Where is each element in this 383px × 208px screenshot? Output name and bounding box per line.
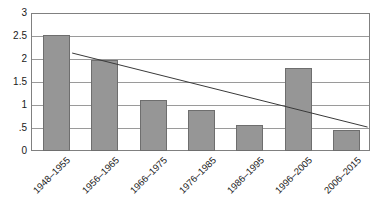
- y-tick-label: 2: [21, 54, 27, 64]
- y-tick-label: 0: [21, 146, 27, 156]
- x-axis: 1948–1955 1956–1965 1966–1975 1976–1985 …: [32, 151, 369, 208]
- x-tick-label: 2006–2015: [322, 155, 362, 195]
- bar: [333, 130, 360, 151]
- y-tick-label: 3: [21, 8, 27, 18]
- x-tick-label: 1948–1955: [32, 155, 72, 195]
- x-tick-label: 1966–1975: [128, 155, 168, 195]
- bar-series: [32, 14, 369, 151]
- y-axis: 3 2.5 2 1.5 1 .5 0: [0, 13, 27, 151]
- x-tick-label: 1956–1965: [80, 155, 120, 195]
- y-tick-label: .5: [19, 123, 27, 133]
- y-tick-label: 2.5: [13, 31, 27, 41]
- y-tick-label: 1: [21, 100, 27, 110]
- bar-chart: 3 2.5 2 1.5 1 .5 0 1948–1955 1956–1965 1…: [0, 0, 383, 208]
- bar: [91, 60, 118, 151]
- bar: [140, 100, 167, 151]
- x-tick-label: 1986–1995: [225, 155, 265, 195]
- y-tick-label: 1.5: [13, 77, 27, 87]
- bar: [188, 110, 215, 151]
- bar: [43, 35, 70, 151]
- x-tick-label: 1976–1985: [177, 155, 217, 195]
- bar: [285, 68, 312, 151]
- bar: [236, 125, 263, 151]
- x-tick-label: 1996–2005: [274, 155, 314, 195]
